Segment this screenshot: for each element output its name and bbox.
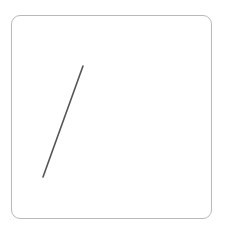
drawing-canvas-panel[interactable] (11, 15, 212, 219)
